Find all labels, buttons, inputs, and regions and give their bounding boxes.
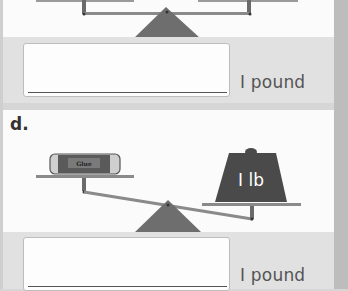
svg-text:Glue: Glue bbox=[76, 160, 92, 167]
right-post-d bbox=[250, 206, 254, 219]
one-pound-weight-icon: I lb bbox=[215, 148, 287, 202]
glue-stick-icon: Glue bbox=[50, 154, 120, 174]
unit-label-d: I pound bbox=[240, 265, 305, 285]
answer-box-d[interactable] bbox=[23, 237, 230, 291]
right-pan-d bbox=[202, 203, 301, 206]
svg-text:I lb: I lb bbox=[238, 170, 264, 190]
left-post-d bbox=[82, 178, 86, 191]
answer-line bbox=[28, 286, 227, 287]
left-pan-d bbox=[36, 175, 134, 178]
